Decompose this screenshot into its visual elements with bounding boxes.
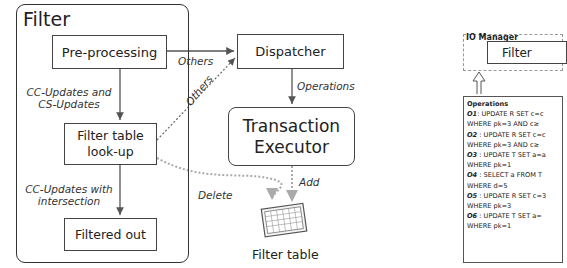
transaction-executor-node: Transaction Executor [228,107,355,166]
operation-o2: O2 : UPDATE R SET c=c [467,130,559,140]
preprocessing-node: Pre-processing [52,35,167,69]
io-filter-node: Filter [487,41,567,64]
operation-o3: O3 : UPDATE T SET a=a [467,150,559,160]
io-manager-arrow [473,72,485,94]
preprocessing-label: Pre-processing [62,45,157,60]
filtered-out-node: Filtered out [64,218,157,251]
dispatcher-node: Dispatcher [237,34,344,69]
cc-intersection-label: CC-Updates with intersection [18,183,120,207]
filter-table-lookup-node: Filter table look-up [64,123,157,165]
filter-table-icon [255,200,315,240]
others-label-1: Others [178,55,213,67]
add-label: Add [299,176,320,188]
operations-title: Operations [467,99,559,109]
operation-o6: O6 : UPDATE T SET a= [467,211,559,221]
filter-group-title: Filter [23,8,70,30]
operations-label: Operations [297,80,355,92]
operation-o4: O4 : SELECT a FROM T [467,170,559,180]
operation-o1: O1: UPDATE R SET c=c [467,109,559,119]
operations-panel: Operations O1: UPDATE R SET c=c WHERE pk… [463,96,563,263]
operation-o5: O5 : UPDATE R SET c=3 [467,191,559,201]
filter-table-label: Filter table [252,247,319,262]
cc-cs-updates-label: CC-Updates and CS-Updates [20,86,118,110]
delete-label: Delete [198,189,233,201]
